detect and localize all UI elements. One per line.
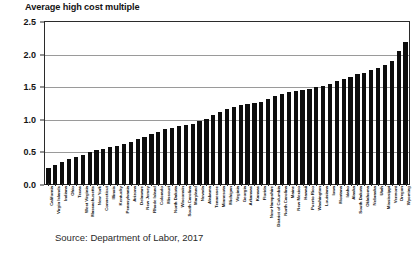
- y-axis: 0.00.51.01.52.02.5: [0, 0, 44, 190]
- x-tick-label: Minnesota: [222, 186, 227, 207]
- bar: [136, 139, 140, 185]
- bar: [142, 137, 146, 185]
- bar: [252, 103, 256, 185]
- x-tick-label: Puerto Rico: [311, 186, 316, 210]
- bar: [129, 142, 133, 185]
- x-tick-label: Hawaii: [304, 186, 309, 200]
- bar: [170, 128, 174, 185]
- bar: [355, 74, 359, 185]
- x-tick-label: Oregon: [400, 186, 405, 201]
- x-tick-label: South Carolina: [188, 186, 193, 217]
- x-tick-label: Delaware: [140, 186, 145, 205]
- x-tick-label: Arkansas: [249, 186, 254, 205]
- bar: [225, 109, 229, 185]
- x-tick-label: Wyoming: [407, 186, 412, 205]
- x-tick-label: Arizona: [133, 186, 138, 202]
- x-tick-label: Vermont: [394, 186, 399, 203]
- bar: [191, 124, 195, 185]
- x-tick-label: District of Columbia: [277, 186, 282, 227]
- x-tick-label: Kentucky: [119, 186, 124, 205]
- bar: [218, 112, 222, 185]
- bar: [115, 146, 119, 185]
- x-tick-label: Utah: [380, 186, 385, 196]
- x-tick-label: Wisconsin: [181, 186, 186, 207]
- bar: [197, 121, 201, 185]
- y-tick-label: 1.0: [23, 115, 36, 125]
- bar: [204, 119, 208, 186]
- x-tick-label: Alabama: [208, 186, 213, 204]
- x-tick-label: West Virginia: [85, 186, 90, 213]
- bar: [300, 90, 304, 185]
- bar: [211, 115, 215, 185]
- bar: [369, 70, 373, 185]
- x-tick-label: Montana: [339, 186, 344, 204]
- y-tick-label: 0.5: [23, 147, 36, 157]
- x-tick-label: New Jersey: [146, 186, 151, 210]
- bars-layer: [45, 22, 409, 185]
- bar: [245, 104, 249, 185]
- x-tick-label: Mississippi: [387, 186, 392, 209]
- x-tick-label: New Hampshire: [270, 186, 275, 218]
- bar: [266, 99, 270, 185]
- x-tick-label: Ohio: [71, 186, 76, 196]
- x-tick-label: New Mexico: [297, 186, 302, 211]
- x-tick-label: Colorado: [160, 186, 165, 205]
- bar: [362, 73, 366, 185]
- x-tick-label: Virgin Islands: [57, 186, 62, 214]
- bar: [390, 61, 394, 185]
- bar: [294, 91, 298, 185]
- bar: [273, 96, 277, 185]
- bar: [259, 102, 263, 185]
- y-tick-label: 2.5: [23, 17, 36, 27]
- x-tick-label: Massachusetts: [91, 186, 96, 217]
- bar: [232, 107, 236, 185]
- bar: [287, 92, 291, 185]
- bar: [156, 132, 160, 185]
- bar: [376, 68, 380, 185]
- x-tick-label: North Carolina: [284, 186, 289, 216]
- x-tick-label: Idaho: [346, 186, 351, 197]
- bar: [383, 65, 387, 185]
- x-tick-label: Virginia: [236, 186, 241, 202]
- bar: [81, 155, 85, 185]
- x-tick-label: Tennessee: [215, 186, 220, 208]
- bar: [348, 77, 352, 185]
- bar: [122, 144, 126, 185]
- bar: [342, 79, 346, 185]
- x-tick-label: Michigan: [229, 186, 234, 205]
- x-tick-label: Illinois: [112, 186, 117, 200]
- bar: [314, 87, 318, 185]
- bar: [108, 147, 112, 185]
- bar: [184, 125, 188, 185]
- bar: [177, 126, 181, 185]
- chart-figure: Average high cost multiple 0.00.51.01.52…: [0, 0, 417, 268]
- bar: [163, 129, 167, 185]
- x-tick-label: Indiana: [64, 186, 69, 201]
- x-tick-label: Georgia: [243, 186, 248, 202]
- x-tick-label: Oklahoma: [366, 186, 371, 207]
- x-tick-label: Pennsylvania: [126, 186, 131, 213]
- x-tick-label: Connecticut: [105, 186, 110, 211]
- x-tick-label: South Dakota: [359, 186, 364, 214]
- x-tick-label: Nebraska: [373, 186, 378, 205]
- x-tick-label: Nevada: [201, 186, 206, 201]
- source-note: Source: Department of Labor, 2017: [55, 232, 203, 243]
- bar: [101, 149, 105, 186]
- bar: [60, 162, 64, 185]
- bar: [149, 134, 153, 185]
- bar: [307, 89, 311, 185]
- y-tick-label: 0.0: [23, 180, 36, 190]
- y-tick-label: 2.0: [23, 50, 36, 60]
- x-tick-label: Iowa: [332, 186, 337, 196]
- x-tick-label: California: [50, 186, 55, 206]
- bar: [67, 159, 71, 185]
- bar: [397, 51, 401, 185]
- bar: [335, 81, 339, 185]
- x-tick-label: Missouri: [167, 186, 172, 204]
- bar: [74, 157, 78, 185]
- x-tick-label: Kansas: [256, 186, 261, 201]
- bar: [321, 86, 325, 185]
- bar: [280, 94, 284, 185]
- bar: [94, 150, 98, 185]
- bar: [328, 84, 332, 185]
